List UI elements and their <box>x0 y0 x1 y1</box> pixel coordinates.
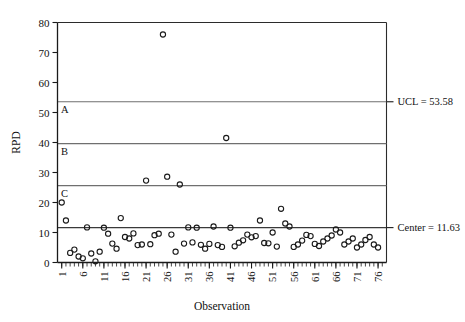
x-tick-label: 71 <box>352 272 363 283</box>
data-point <box>165 174 170 179</box>
data-point <box>287 224 292 229</box>
y-tick-label: 20 <box>39 197 51 209</box>
y-tick-label: 50 <box>39 107 51 119</box>
data-point <box>295 242 300 247</box>
data-point <box>329 233 334 238</box>
zone-label-c: C <box>61 188 68 199</box>
x-tick-label: 56 <box>289 272 300 283</box>
data-point <box>270 230 275 235</box>
data-point <box>198 242 203 247</box>
x-tick-label: 41 <box>225 272 236 283</box>
data-point <box>316 243 321 248</box>
data-point <box>367 234 372 239</box>
data-point <box>207 241 212 246</box>
x-tick-label: 66 <box>331 272 342 283</box>
y-tick-label: 70 <box>39 47 51 59</box>
data-point <box>110 241 115 246</box>
data-point <box>211 224 216 229</box>
data-point <box>240 238 245 243</box>
x-tick-label: 76 <box>373 272 384 283</box>
y-tick-label: 60 <box>39 77 51 89</box>
zone-label-b: B <box>61 146 68 157</box>
y-axis-title: RPD <box>10 131 22 153</box>
data-point <box>89 251 94 256</box>
y-tick-label: 80 <box>39 17 51 29</box>
data-point <box>114 246 119 251</box>
y-tick-label: 30 <box>39 167 51 179</box>
control-chart-svg: ABCUCL = 53.58Center = 11.63010203040506… <box>0 0 465 322</box>
data-point <box>131 231 136 236</box>
data-point <box>148 242 153 247</box>
data-point <box>177 182 182 187</box>
x-tick-label: 16 <box>120 272 131 283</box>
data-point <box>63 218 68 223</box>
x-tick-label: 1 <box>57 272 68 277</box>
data-point <box>274 244 279 249</box>
data-point <box>375 245 380 250</box>
data-point <box>169 232 174 237</box>
y-tick-label: 40 <box>39 137 51 149</box>
x-axis-title: Observation <box>194 300 250 312</box>
data-point <box>72 247 77 252</box>
y-tick-label: 0 <box>44 257 50 269</box>
x-tick-label: 26 <box>162 272 173 283</box>
control-chart-figure: ABCUCL = 53.58Center = 11.63010203040506… <box>0 0 465 322</box>
data-point <box>278 206 283 211</box>
data-point <box>106 231 111 236</box>
data-point <box>350 236 355 241</box>
data-point <box>160 32 165 37</box>
data-point <box>338 230 343 235</box>
data-point <box>203 246 208 251</box>
annotation-center: Center = 11.63 <box>398 222 460 233</box>
x-tick-label: 46 <box>246 272 257 283</box>
x-tick-label: 51 <box>267 272 278 283</box>
x-tick-label: 31 <box>183 272 194 283</box>
x-tick-label: 36 <box>204 272 215 283</box>
data-point <box>173 249 178 254</box>
data-point <box>143 178 148 183</box>
data-point <box>97 249 102 254</box>
data-point <box>224 135 229 140</box>
data-point <box>59 200 64 205</box>
x-tick-label: 61 <box>310 272 321 283</box>
y-tick-label: 10 <box>39 227 51 239</box>
data-point <box>181 241 186 246</box>
annotation-ucl: UCL = 53.58 <box>398 96 453 107</box>
x-tick-label: 11 <box>99 272 110 282</box>
data-point <box>257 218 262 223</box>
zone-label-a: A <box>61 104 69 115</box>
data-point <box>118 216 123 221</box>
data-point <box>359 242 364 247</box>
data-point <box>300 238 305 243</box>
data-point <box>190 240 195 245</box>
x-tick-label: 21 <box>141 272 152 283</box>
x-tick-label: 6 <box>78 272 89 277</box>
